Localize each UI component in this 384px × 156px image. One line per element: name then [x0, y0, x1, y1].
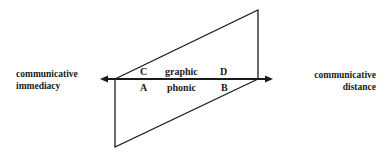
region-label-a: A: [140, 82, 147, 93]
communicative-distance-label: communicative distance: [314, 69, 376, 93]
right-label-line2: distance: [314, 81, 376, 93]
graphic-label: graphic: [165, 66, 198, 77]
arrowhead-left-icon: [100, 76, 108, 83]
region-label-b: B: [221, 82, 228, 93]
right-label-line1: communicative: [314, 69, 376, 81]
arrowhead-right-icon: [265, 76, 273, 83]
left-label-line1: communicative: [16, 68, 78, 80]
region-label-c: C: [140, 66, 147, 77]
phonic-label: phonic: [167, 82, 196, 93]
left-label-line2: immediacy: [16, 80, 78, 92]
region-label-d: D: [220, 66, 227, 77]
communicative-immediacy-label: communicative immediacy: [16, 68, 78, 92]
